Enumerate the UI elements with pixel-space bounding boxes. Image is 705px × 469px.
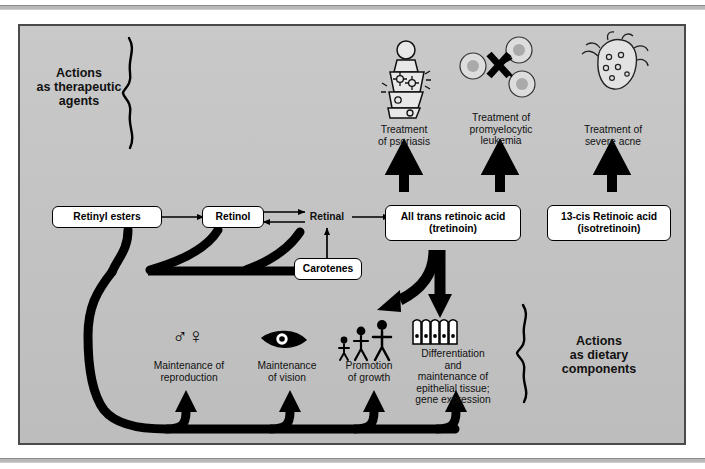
box-13-cis-retinoic-acid-label: 13-cis Retinoic acid — [561, 211, 657, 223]
box-retinyl-esters[interactable]: Retinyl esters — [52, 206, 162, 228]
box-retinyl-esters-label: Retinyl esters — [73, 211, 141, 223]
caption-epithelial-line-4: epithelial tissue; — [400, 383, 506, 395]
box-carotenes[interactable]: Carotenes — [294, 258, 362, 280]
caption-epithelial-line-3: maintenance of — [400, 371, 506, 383]
box-retinol[interactable]: Retinol — [202, 206, 264, 228]
male-female-symbols-icon: ♂♀ — [156, 325, 220, 346]
caption-epithelial-line-1: Differentiation — [400, 348, 506, 360]
box-all-trans-retinoic-acid-label: All trans retinoic acid — [401, 211, 506, 223]
caption-acne-line-2: severe acne — [568, 136, 658, 148]
box-13-cis-retinoic-acid-sublabel: (isotretinoin) — [578, 223, 641, 235]
box-13-cis-retinoic-acid[interactable]: 13-cis Retinoic acid (isotretinoin) — [547, 205, 671, 241]
caption-psoriasis-line-1: Treatment — [361, 124, 447, 136]
caption-psoriasis: Treatment of psoriasis — [361, 124, 447, 147]
section-heading-therapeutic: Actions as therapeutic agents — [36, 66, 122, 108]
dietary-line-1: Actions — [540, 334, 658, 348]
label-retinal: Retinal — [300, 211, 354, 223]
box-carotenes-label: Carotenes — [303, 263, 353, 275]
box-all-trans-retinoic-acid[interactable]: All trans retinoic acid (tretinoin) — [385, 205, 521, 241]
caption-psoriasis-line-2: of psoriasis — [361, 136, 447, 148]
caption-vision: Maintenance of vision — [244, 360, 330, 383]
label-retinal-text: Retinal — [310, 211, 344, 222]
female-symbol: ♀ — [188, 324, 204, 347]
bottom-divider-rule — [0, 458, 705, 463]
box-all-trans-retinoic-acid-sublabel: (tretinoin) — [429, 223, 477, 235]
caption-leukemia-line-2: promyelocytic — [455, 124, 547, 136]
caption-epithelial-line-2: and — [400, 360, 506, 372]
caption-acne-line-1: Treatment of — [568, 124, 658, 136]
box-retinol-label: Retinol — [216, 211, 251, 223]
caption-growth-line-1: Promotion — [330, 360, 408, 372]
top-divider-rule — [0, 5, 705, 10]
dietary-line-2: as dietary — [540, 348, 658, 362]
caption-vision-line-2: of vision — [244, 372, 330, 384]
caption-reproduction-line-2: reproduction — [134, 372, 244, 384]
caption-severe-acne: Treatment of severe acne — [568, 124, 658, 147]
caption-epithelial: Differentiation and maintenance of epith… — [400, 348, 506, 406]
caption-leukemia-line-3: leukemia — [455, 135, 547, 147]
dietary-line-3: components — [540, 362, 658, 376]
caption-growth-line-2: of growth — [330, 372, 408, 384]
therapeutic-line-2: as therapeutic — [36, 80, 122, 94]
caption-growth: Promotion of growth — [330, 360, 408, 383]
therapeutic-line-1: Actions — [36, 66, 122, 80]
caption-vision-line-1: Maintenance — [244, 360, 330, 372]
male-symbol: ♂ — [172, 324, 188, 347]
section-heading-dietary: Actions as dietary components — [540, 334, 658, 376]
caption-leukemia-line-1: Treatment of — [455, 112, 547, 124]
caption-reproduction: Maintenance of reproduction — [134, 360, 244, 383]
therapeutic-line-3: agents — [36, 94, 122, 108]
caption-promyelocytic-leukemia: Treatment of promyelocytic leukemia — [455, 112, 547, 147]
caption-reproduction-line-1: Maintenance of — [134, 360, 244, 372]
caption-epithelial-line-5: gene expression — [400, 394, 506, 406]
